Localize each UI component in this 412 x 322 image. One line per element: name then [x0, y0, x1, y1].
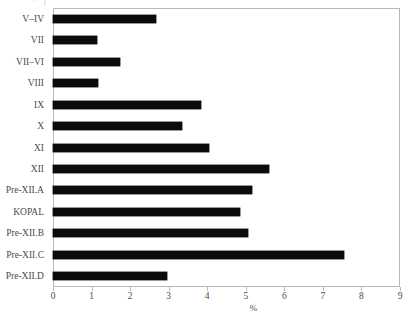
x-axis-tick-label: 6 — [282, 291, 287, 301]
y-axis-tick-label: VII–VI — [16, 57, 44, 67]
bar — [53, 229, 248, 237]
bar-row — [53, 186, 400, 194]
bar-row — [53, 272, 400, 280]
bar-row — [53, 101, 400, 109]
bar-row — [53, 165, 400, 173]
x-axis-tick-label: 5 — [243, 291, 248, 301]
bar — [53, 122, 182, 130]
y-axis-tick-label: Pre-XII.D — [6, 271, 44, 281]
bar-row — [53, 251, 400, 259]
x-axis-tick-label: 3 — [166, 291, 171, 301]
y-axis-tick-label: XII — [31, 164, 44, 174]
x-axis-tick-label: 9 — [398, 291, 403, 301]
bar-row — [53, 144, 400, 152]
bar-chart: ∙ │ V–IVVIIVII–VIVIIIIXXXIXIIPre-XII.AKO… — [0, 0, 412, 322]
bar-row — [53, 229, 400, 237]
bar — [53, 165, 269, 173]
clipped-text-artifact: ∙ │ — [33, 0, 50, 5]
y-axis-tick-label: VII — [31, 35, 44, 45]
y-axis-tick-label: VIII — [28, 78, 44, 88]
x-axis-tick-label: 8 — [359, 291, 364, 301]
y-axis-tick-label: XI — [34, 143, 44, 153]
bar — [53, 79, 98, 87]
bar — [53, 58, 120, 66]
y-axis-tick-label: KOPAL — [13, 207, 44, 217]
y-axis-tick-label: IX — [34, 100, 44, 110]
y-axis-tick-label: Pre-XII.C — [6, 250, 44, 260]
bar-row — [53, 36, 400, 44]
x-axis-tick-label: 0 — [51, 291, 56, 301]
bar-row — [53, 58, 400, 66]
bar — [53, 101, 201, 109]
bar-row — [53, 79, 400, 87]
bar — [53, 144, 209, 152]
bar — [53, 272, 167, 280]
bar-row — [53, 122, 400, 130]
plot-area — [53, 8, 400, 287]
y-axis-tick-label: Pre-XII.B — [6, 228, 44, 238]
bar — [53, 251, 344, 259]
bar — [53, 15, 156, 23]
bar — [53, 36, 97, 44]
y-axis-tick-label: X — [37, 121, 44, 131]
y-axis-tick-label: V–IV — [22, 14, 44, 24]
bar — [53, 208, 240, 216]
x-axis-tick-label: 7 — [321, 291, 326, 301]
y-axis-tick-label: Pre-XII.A — [6, 185, 44, 195]
bar — [53, 186, 252, 194]
x-axis-tick-label: 4 — [205, 291, 210, 301]
x-axis-title: % — [250, 303, 258, 313]
x-axis-tick-label: 1 — [89, 291, 94, 301]
bar-row — [53, 15, 400, 23]
bar-row — [53, 208, 400, 216]
x-axis-tick-label: 2 — [128, 291, 133, 301]
y-axis-tick-labels: V–IVVIIVII–VIVIIIIXXXIXIIPre-XII.AKOPALP… — [0, 8, 50, 287]
